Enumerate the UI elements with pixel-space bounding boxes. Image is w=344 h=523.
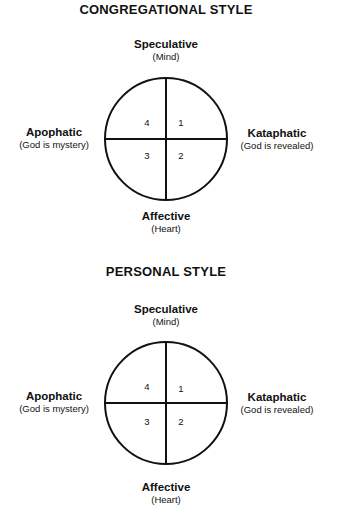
quadrant-1: 1 bbox=[175, 383, 187, 394]
quadrant-circle bbox=[0, 0, 344, 523]
bottom-pole-name: Affective bbox=[116, 481, 216, 494]
left-pole-sub: (God is mystery) bbox=[12, 403, 96, 414]
right-pole-label: Kataphatic (God is revealed) bbox=[232, 391, 322, 415]
quadrant-3: 3 bbox=[141, 416, 153, 427]
bottom-pole-sub: (Heart) bbox=[116, 494, 216, 505]
left-pole-label: Apophatic (God is mystery) bbox=[12, 390, 96, 414]
quadrant-2: 2 bbox=[175, 416, 187, 427]
quadrant-4: 4 bbox=[141, 381, 153, 392]
bottom-pole-label: Affective (Heart) bbox=[116, 481, 216, 505]
left-pole-name: Apophatic bbox=[12, 390, 96, 403]
right-pole-name: Kataphatic bbox=[232, 391, 322, 404]
right-pole-sub: (God is revealed) bbox=[232, 404, 322, 415]
